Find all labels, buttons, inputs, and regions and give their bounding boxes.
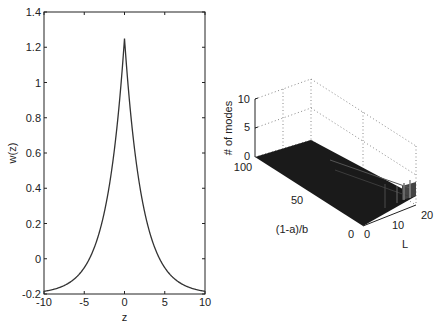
surface bbox=[255, 140, 416, 226]
y-axis-label: w(z) bbox=[6, 143, 18, 165]
y-tick-label: 1 bbox=[35, 77, 41, 89]
x-tick-label: 20 bbox=[421, 209, 433, 221]
y-tick-labels: -0.200.20.40.60.811.21.4 bbox=[22, 6, 41, 300]
y-tick-label: 0 bbox=[348, 228, 354, 240]
y-tick-label: 0.2 bbox=[26, 218, 41, 230]
y-axis-label: (1-a)/b bbox=[276, 223, 308, 235]
line-plot: -0.200.20.40.60.811.21.4 -10-50510 z w(z… bbox=[6, 6, 211, 323]
surface-plot-3d: 10 5 0 100 50 0 0 10 20 # of modes (1-a)… bbox=[222, 79, 433, 250]
z-tick-label: 10 bbox=[238, 93, 250, 105]
figure: -0.200.20.40.60.811.21.4 -10-50510 z w(z… bbox=[0, 0, 436, 328]
z-axis-label: # of modes bbox=[222, 100, 234, 155]
x-tick-label: 0 bbox=[364, 228, 370, 240]
y-tick-label: 50 bbox=[291, 194, 303, 206]
plot-frame bbox=[44, 12, 205, 294]
y-tick-label: 0.4 bbox=[26, 182, 41, 194]
x-tick-label: 10 bbox=[392, 219, 404, 231]
y-tick-label: 0.8 bbox=[26, 112, 41, 124]
x-axis-label: z bbox=[122, 311, 128, 323]
y-tick-label: 0 bbox=[35, 253, 41, 265]
x-tick-label: -5 bbox=[79, 296, 89, 308]
x-tick-label: 10 bbox=[199, 296, 211, 308]
x-tick-label: 5 bbox=[162, 296, 168, 308]
x-tick-label: 0 bbox=[121, 296, 127, 308]
y-tick-label: 1.2 bbox=[26, 41, 41, 53]
y-tick-label: 0.6 bbox=[26, 147, 41, 159]
y-tick-label: 100 bbox=[234, 161, 252, 173]
z-tick-label: 5 bbox=[244, 121, 250, 133]
x-tick-label: -10 bbox=[36, 296, 52, 308]
x-tick-labels: -10-50510 bbox=[36, 296, 211, 308]
y-tick-label: 1.4 bbox=[26, 6, 41, 18]
x-axis-label: L bbox=[402, 238, 408, 250]
